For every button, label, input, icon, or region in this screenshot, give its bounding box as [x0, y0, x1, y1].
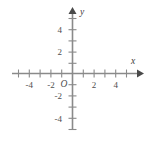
- x-tick-label-minus2: -2: [47, 80, 55, 90]
- coordinate-plane-svg: -4 -2 2 4 4 2 -2 -4 O x y: [0, 0, 147, 144]
- y-tick-label-plus4: 4: [58, 25, 63, 35]
- x-axis-label: x: [130, 56, 136, 66]
- origin-label: O: [61, 79, 68, 89]
- y-tick-label-plus2: 2: [58, 47, 63, 57]
- y-tick-label-minus4: -4: [55, 114, 63, 124]
- y-axis-label: y: [79, 7, 85, 17]
- x-tick-label-plus4: 4: [113, 80, 118, 90]
- y-axis-arrow-icon: [69, 7, 77, 14]
- x-axis-arrow-icon: [137, 70, 144, 78]
- coordinate-plane-figure: -4 -2 2 4 4 2 -2 -4 O x y: [0, 0, 147, 144]
- x-tick-label-plus2: 2: [92, 80, 97, 90]
- y-tick-label-minus2: -2: [55, 91, 63, 101]
- x-tick-label-minus4: -4: [26, 80, 34, 90]
